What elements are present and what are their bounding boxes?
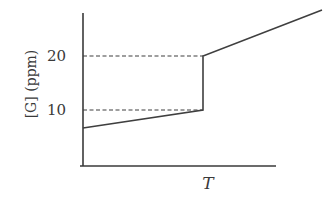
y-tick-label-20: 20 (47, 47, 66, 65)
axes (80, 13, 276, 166)
x-axis-label: T (202, 173, 215, 193)
y-tick-label-10: 10 (47, 101, 66, 119)
chart: 20 10 [G] (ppm) T (0, 0, 332, 206)
y-axis-label: [G] (ppm) (23, 50, 39, 119)
reference-lines (83, 56, 203, 110)
